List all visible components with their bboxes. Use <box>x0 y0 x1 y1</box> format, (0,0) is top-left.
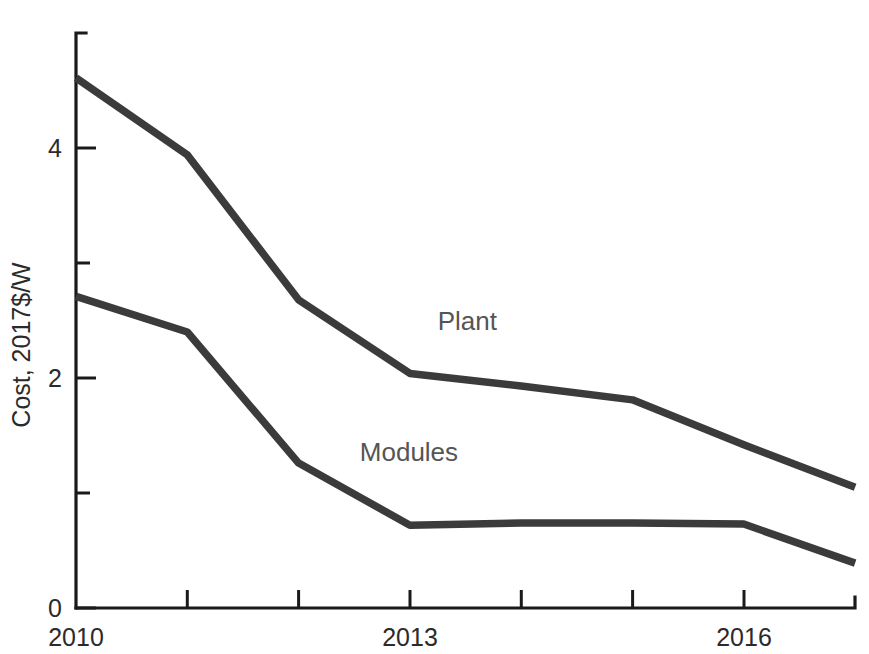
chart-background <box>0 0 869 654</box>
y-tick-label-2: 2 <box>48 364 62 392</box>
y-tick-label-4: 4 <box>48 134 62 162</box>
line-chart: 0 2 4 2010 2013 2016 Cost, 2017$/W Plant… <box>0 0 869 654</box>
chart-container: 0 2 4 2010 2013 2016 Cost, 2017$/W Plant… <box>0 0 869 654</box>
x-tick-label-2010: 2010 <box>48 623 104 651</box>
series-annotation-modules: Modules <box>360 437 458 467</box>
x-tick-label-2016: 2016 <box>716 623 772 651</box>
y-axis-title: Cost, 2017$/W <box>7 262 35 428</box>
series-annotation-plant: Plant <box>438 306 498 336</box>
y-tick-label-0: 0 <box>48 594 62 622</box>
x-tick-label-2013: 2013 <box>382 623 438 651</box>
